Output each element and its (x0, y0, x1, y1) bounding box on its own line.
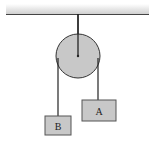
block-a-label: A (95, 106, 103, 117)
ceiling (6, 4, 149, 15)
pulley-diagram: A B (0, 0, 154, 163)
block-b-label: B (55, 121, 62, 132)
block-b: B (45, 116, 71, 135)
block-a: A (82, 100, 116, 121)
pulley-axle (77, 55, 79, 57)
